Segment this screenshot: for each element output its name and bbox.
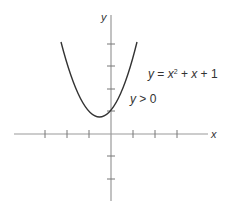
parabola-curve: [61, 42, 137, 117]
y-axis-label: y: [101, 12, 107, 23]
coordinate-plot: [0, 0, 230, 214]
x-axis-label: x: [211, 129, 217, 140]
equation-label: y = x2 + x + 1: [148, 68, 218, 80]
inequality-label: y > 0: [130, 93, 156, 105]
